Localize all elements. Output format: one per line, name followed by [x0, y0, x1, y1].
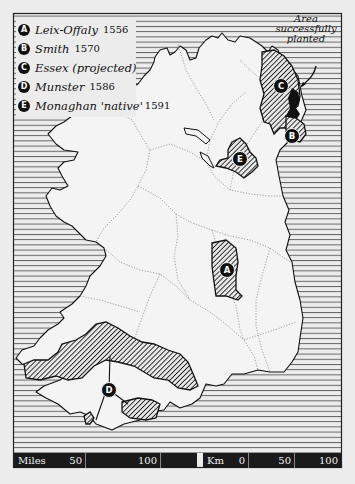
scale-km-seg-1: Km 0 [203, 453, 249, 468]
scale-miles-seg-3 [161, 453, 197, 468]
map-label-b: B [284, 128, 300, 144]
map-label-d: D [101, 382, 117, 398]
legend-label: Munster [35, 80, 84, 94]
scale-km-seg-3: 100 [295, 453, 341, 468]
legend-item-c: C Essex (projected) [18, 58, 136, 77]
scale-tick: 0 [239, 453, 245, 468]
legend-item-a: A Leix-Offaly 1556 [18, 20, 136, 39]
legend-item-d: D Munster 1586 [18, 77, 136, 96]
scale-tick: 50 [278, 453, 291, 468]
scale-miles-seg-1: Miles 50 [14, 453, 86, 468]
plantation-d-munster-south-1 [122, 398, 160, 420]
legend-label: Leix-Offaly [35, 23, 98, 37]
annotation-line: planted [268, 34, 344, 44]
annotation-planted: Area successfully planted [268, 14, 344, 44]
scale-miles-seg-2: 100 [86, 453, 161, 468]
badge-b-icon: B [18, 43, 30, 55]
legend-year: 1586 [89, 81, 114, 92]
badge-e-icon: E [18, 100, 30, 112]
scale-km-seg-2: 50 [249, 453, 295, 468]
legend-year: 1570 [75, 43, 100, 54]
legend-year: 1556 [103, 24, 128, 35]
scale-miles-label: Miles [18, 453, 46, 468]
legend-label: Monaghan 'native' [35, 99, 143, 113]
scale-tick: 50 [69, 453, 82, 468]
badge-c-icon: C [18, 62, 30, 74]
scale-km-label: Km [207, 453, 224, 468]
legend-item-e: E Monaghan 'native' 1591 [18, 96, 136, 115]
legend-label: Smith [35, 42, 70, 56]
badge-a-icon: A [18, 24, 30, 36]
scale-tick: 100 [138, 453, 157, 468]
legend-year: 1591 [145, 100, 170, 111]
legend: A Leix-Offaly 1556 B Smith 1570 C Essex … [16, 18, 136, 117]
legend-item-b: B Smith 1570 [18, 39, 136, 58]
map-label-e: E [232, 151, 248, 167]
map-label-c: C [273, 78, 289, 94]
badge-d-icon: D [18, 81, 30, 93]
scale-tick: 100 [319, 453, 338, 468]
legend-label: Essex (projected) [35, 61, 137, 75]
map-label-a: A [219, 262, 235, 278]
scale-bar: Miles 50 100 Km 0 50 100 [14, 453, 341, 468]
